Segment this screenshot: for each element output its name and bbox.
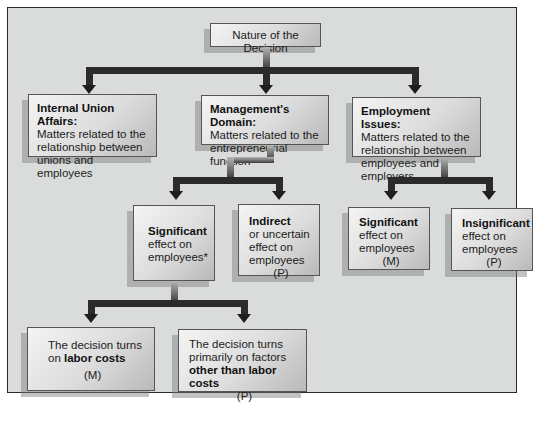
box-title: Insignificant	[462, 217, 530, 229]
box-tag: (M)	[359, 255, 423, 268]
box-emphasis: labor costs	[64, 352, 125, 364]
box-tag: (P)	[249, 267, 313, 280]
employment-issues-box: Employment Issues: Matters related to th…	[352, 97, 481, 157]
box-title: Significant	[148, 225, 207, 237]
root-box: Nature of the Decision	[210, 23, 321, 47]
arrow-down-icon	[259, 85, 273, 94]
box-body: effect on employees	[359, 229, 415, 254]
box-title: Internal Union Affairs:	[37, 102, 114, 127]
arrow-down-icon	[272, 191, 286, 200]
employment-insignificant-box: Insignificant effect on employees (P)	[451, 208, 533, 271]
management-drop-right	[276, 177, 283, 191]
box-body: effect on employees	[462, 230, 518, 255]
significant-effect-box: Significant effect on employees*	[133, 205, 215, 281]
root-stem	[263, 47, 270, 69]
management-stem-jog	[227, 157, 274, 163]
arrow-down-icon	[82, 85, 96, 94]
bus-drop-center	[263, 67, 270, 85]
arrow-down-icon	[384, 191, 398, 200]
level1-bus	[86, 67, 419, 74]
management-bus	[173, 177, 283, 184]
box-title: Indirect	[249, 215, 291, 227]
box-emphasis: other than labor costs	[189, 364, 277, 389]
management-drop-left	[173, 177, 180, 191]
box-body: effect on employees*	[148, 238, 208, 263]
box-tag: (P)	[462, 256, 526, 269]
employment-significant-box: Significant effect on employees (M)	[348, 207, 430, 270]
significant-drop-right	[241, 300, 248, 314]
arrow-down-icon	[408, 85, 422, 94]
box-tag: (M)	[48, 369, 146, 382]
arrow-down-icon	[84, 314, 98, 323]
arrow-down-icon	[169, 191, 183, 200]
significant-bus	[88, 300, 248, 307]
labor-costs-box: The decision turns on labor costs (M)	[27, 327, 155, 391]
box-title: Employment Issues:	[361, 105, 430, 130]
box-tag: (P)	[189, 390, 300, 403]
significant-drop-left	[88, 300, 95, 314]
box-title: Significant	[359, 216, 418, 228]
managements-domain-box: Management's Domain: Matters related to …	[201, 95, 329, 145]
other-factors-box: The decision turns primarily on factors …	[178, 329, 307, 392]
employment-bus	[388, 177, 493, 184]
employment-drop-left	[388, 177, 395, 191]
employment-drop-right	[486, 177, 493, 191]
internal-union-affairs-box: Internal Union Affairs: Matters related …	[28, 94, 157, 157]
box-title: Management's Domain:	[210, 103, 289, 128]
management-stem-lower	[227, 157, 234, 179]
arrow-down-icon	[237, 314, 251, 323]
arrow-down-icon	[482, 191, 496, 200]
employment-stem	[441, 157, 448, 179]
bus-drop-right	[412, 67, 419, 85]
box-body: or uncertain effect on employees	[249, 228, 310, 266]
bus-drop-left	[86, 67, 93, 85]
box-text: The decision turns primarily on factors	[189, 338, 286, 363]
indirect-effect-box: Indirect or uncertain effect on employee…	[238, 204, 320, 276]
